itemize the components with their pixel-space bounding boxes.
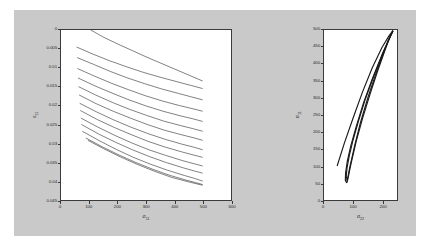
x-tick-label: 600 <box>228 205 235 209</box>
figure-panel: 00.0050.010.0150.020.0250.030.0350.040.0… <box>14 10 416 236</box>
left-plot-y-axis-label: ε11 <box>32 99 40 131</box>
x-tick-label: 100 <box>349 205 356 209</box>
plot-line <box>81 124 202 173</box>
plot-line <box>346 31 393 182</box>
x-tick-label: 0 <box>59 205 61 209</box>
y-tick-mark <box>58 125 61 126</box>
x-tick-label: 500 <box>200 205 207 209</box>
y-tick-mark <box>321 63 324 64</box>
x-axis-label-symbol: σ11 <box>143 213 150 219</box>
plot-line <box>82 131 202 181</box>
y-tick-label: 400 <box>295 61 320 65</box>
y-tick-mark <box>321 115 324 116</box>
plot-line <box>347 31 393 182</box>
y-tick-mark <box>321 29 324 30</box>
plot-line <box>88 140 203 185</box>
y-tick-label: 0.035 <box>32 161 57 165</box>
y-tick-mark <box>58 182 61 183</box>
x-tick-label: 400 <box>171 205 178 209</box>
left-plot-x-axis-label: σ11 <box>126 214 166 222</box>
y-tick-label: 0 <box>295 199 320 203</box>
y-tick-mark <box>58 144 61 145</box>
y-tick-label: 0.04 <box>32 180 57 184</box>
plot-line <box>77 69 202 112</box>
right-plot-x-axis-label: σ22 <box>341 214 381 222</box>
y-tick-label: 450 <box>295 44 320 48</box>
y-tick-mark <box>321 81 324 82</box>
y-tick-label: 0.01 <box>32 65 57 69</box>
y-axis-label-subscript: 11 <box>35 112 39 116</box>
y-tick-label: 0.015 <box>32 84 57 88</box>
y-tick-mark <box>321 132 324 133</box>
x-tick-label: 100 <box>85 205 92 209</box>
plot-line <box>81 118 203 166</box>
y-tick-mark <box>321 46 324 47</box>
y-tick-label: 100 <box>295 164 320 168</box>
right-plot-axes <box>323 29 398 201</box>
y-tick-mark <box>58 48 61 49</box>
y-tick-label: 0.03 <box>32 141 57 145</box>
y-tick-label: 500 <box>295 27 320 31</box>
y-tick-mark <box>321 149 324 150</box>
plot-line <box>78 78 203 121</box>
y-tick-label: 0.005 <box>32 46 57 50</box>
y-tick-mark <box>321 184 324 185</box>
x-tick-label: 0 <box>322 205 324 209</box>
x-axis-label-subscript: 22 <box>360 217 364 221</box>
right-plot-y-axis-label: σ11 <box>295 99 303 131</box>
y-axis-label-subscript: 11 <box>298 111 302 115</box>
y-tick-label: 50 <box>295 182 320 186</box>
x-tick-label: 300 <box>142 205 149 209</box>
y-tick-mark <box>321 167 324 168</box>
y-tick-mark <box>58 163 61 164</box>
y-tick-mark <box>58 29 61 30</box>
y-tick-mark <box>58 86 61 87</box>
x-tick-label: 200 <box>379 205 386 209</box>
left-plot-curves <box>61 30 231 200</box>
left-plot-axes <box>60 29 232 201</box>
plot-line <box>79 87 203 132</box>
plot-line <box>77 47 203 89</box>
y-tick-mark <box>58 105 61 106</box>
right-plot-curves <box>324 30 397 200</box>
y-tick-label: 150 <box>295 147 320 151</box>
plot-line <box>345 31 393 183</box>
y-tick-mark <box>58 67 61 68</box>
y-tick-label: 350 <box>295 78 320 82</box>
y-tick-label: 0 <box>32 27 57 31</box>
y-tick-label: 0.045 <box>32 199 57 203</box>
plot-line <box>347 31 393 183</box>
y-axis-label-symbol: ε11 <box>31 112 37 118</box>
y-tick-mark <box>321 98 324 99</box>
y-axis-label-symbol: σ11 <box>294 111 300 118</box>
x-tick-label: 200 <box>114 205 121 209</box>
x-axis-label-symbol: σ22 <box>357 213 364 219</box>
x-axis-label-subscript: 11 <box>146 217 150 221</box>
